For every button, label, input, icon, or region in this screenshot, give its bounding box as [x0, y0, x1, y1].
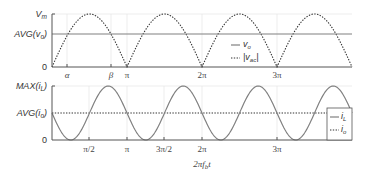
y-label-avg-io: AVG(io)	[16, 108, 47, 119]
x-label-3pi-top: 3π	[272, 70, 282, 80]
bottom-plot: MAX(iL) AVG(io) 0 π/2 π 3π/2 2π 3π 2πfbt…	[16, 81, 352, 171]
x-label-2pi-bottom: 2π	[197, 144, 207, 154]
chart-figure: Vm AVG(vo) 0 α β π 2π 3π vo |vac|	[0, 0, 368, 177]
x-label-pi-bottom: π	[125, 144, 130, 154]
top-legend: vo |vac|	[231, 39, 259, 63]
x-label-alpha: α	[65, 70, 70, 80]
x-label-half-pi: π/2	[83, 144, 95, 154]
x-label-beta: β	[108, 70, 114, 80]
y-label-zero-top: 0	[42, 62, 47, 72]
y-label-vm: Vm	[36, 9, 48, 20]
x-label-three-half-pi: 3π/2	[156, 144, 172, 154]
x-label-2pi-top: 2π	[197, 70, 207, 80]
bottom-legend: iL io	[327, 108, 352, 140]
top-plot: Vm AVG(vo) 0 α β π 2π 3π vo |vac|	[13, 9, 352, 80]
y-label-avg-vo: AVG(vo)	[13, 29, 47, 40]
legend-box	[327, 108, 352, 140]
y-label-max-il: MAX(iL)	[16, 81, 47, 92]
x-axis-title: 2πfbt	[193, 159, 211, 171]
legend-label-vo: vo	[243, 39, 252, 50]
x-label-3pi-bottom: 3π	[272, 144, 282, 154]
y-label-zero-bottom: 0	[42, 135, 47, 145]
legend-label-vac: |vac|	[243, 52, 259, 63]
x-label-pi-top: π	[125, 70, 130, 80]
top-grid	[52, 14, 352, 67]
